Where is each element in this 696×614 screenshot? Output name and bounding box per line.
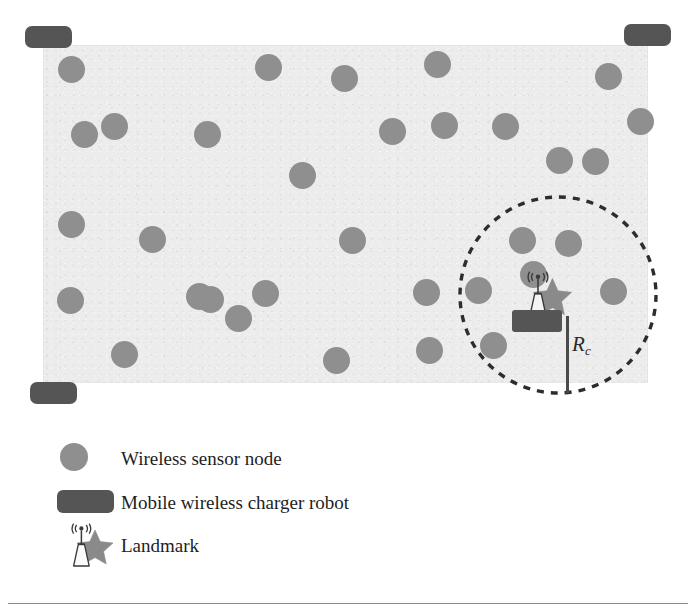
sensor-node [58,211,85,238]
figure-legend: Wireless sensor node Mobile wireless cha… [0,430,696,590]
sensor-node [111,341,138,368]
sensor-node [323,347,350,374]
sensor-node [413,279,440,306]
sensor-node [139,226,166,253]
sensor-node [492,113,519,140]
sensor-node [186,283,213,310]
legend-label-charger-robot: Mobile wireless charger robot [121,493,349,512]
legend-item-landmark: Landmark [0,522,696,562]
sensor-node [289,162,316,189]
sensor-node [252,280,279,307]
sensor-node [225,305,252,332]
sensor-node [595,63,622,90]
legend-label-sensor-node: Wireless sensor node [121,449,282,468]
charger-top-left [25,26,72,48]
sensor-node [424,51,451,78]
sensor-node [582,148,609,175]
sensor-node [627,108,654,135]
legend-item-charger-robot: Mobile wireless charger robot [0,482,696,522]
sensor-node [255,54,282,81]
charger-top-right [624,24,671,46]
sensor-node [331,65,358,92]
circle-icon [60,443,88,471]
charging-radius-label: Rc [572,334,591,357]
sensor-node [339,227,366,254]
sensor-node [546,147,573,174]
sensor-node [57,287,84,314]
landmark-icon [57,522,119,570]
sensor-node [58,56,85,83]
legend-label-landmark: Landmark [121,536,199,555]
sensor-node [379,118,406,145]
sensor-node [416,337,443,364]
radius-subscript: c [585,343,591,358]
legend-item-sensor-node: Wireless sensor node [0,438,696,478]
charger-bottom-left [30,382,77,404]
radius-symbol: R [572,332,585,356]
network-deployment-figure: Rc Wireless sensor node Mobile wireless … [0,0,696,614]
sensor-node [71,121,98,148]
radius-indicator-line [566,316,569,393]
bottom-divider [8,603,688,604]
sensor-node [431,112,458,139]
sensor-node [194,121,221,148]
mobile-charger-robot-body [512,310,562,332]
rectangle-icon [57,490,114,513]
sensor-node [101,113,128,140]
